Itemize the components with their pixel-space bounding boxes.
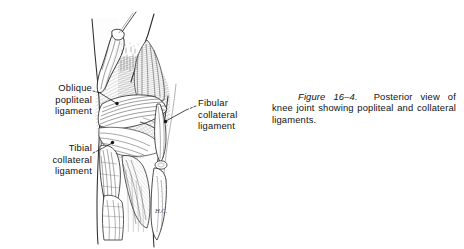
label-oblique-popliteal-ligament: Oblique popliteal ligament <box>6 82 92 117</box>
artist-initials: H.C. <box>154 207 168 214</box>
lateral-femoral-condyle <box>134 40 164 101</box>
label-tibial-collateral-ligament: Tibial collateral ligament <box>6 142 92 177</box>
label-fibular-collateral-ligament: Fibular collateral ligament <box>198 97 268 132</box>
caption-figure-number: Figure 16–4. <box>298 91 358 102</box>
tibia <box>103 195 124 240</box>
figure-caption: Figure 16–4.Posterior view of knee joint… <box>272 91 456 125</box>
svg-text:H.C.: H.C. <box>154 207 168 214</box>
figure-page: H.C. Oblique popliteal ligament <box>0 0 464 249</box>
fibula <box>151 168 166 240</box>
